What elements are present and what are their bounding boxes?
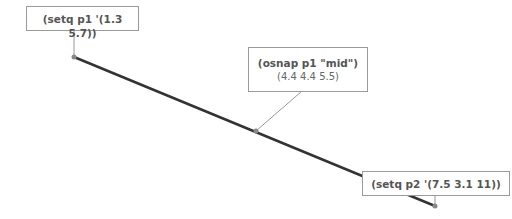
point-p2 — [433, 204, 438, 209]
label-p2-text: (setq p2 '(7.5 3.1 11)) — [371, 178, 501, 190]
leader-mid — [256, 91, 302, 131]
label-p1: (setq p1 '(1.3 5.7)) — [26, 6, 139, 31]
label-mid-text: (osnap p1 "mid") — [249, 56, 367, 70]
label-mid: (osnap p1 "mid") (4.4 4.4 5.5) — [248, 47, 368, 92]
point-mid — [254, 129, 259, 134]
label-mid-value: (4.4 4.4 5.5) — [249, 70, 367, 84]
label-p2: (setq p2 '(7.5 3.1 11)) — [362, 171, 510, 196]
point-p1 — [72, 55, 77, 60]
